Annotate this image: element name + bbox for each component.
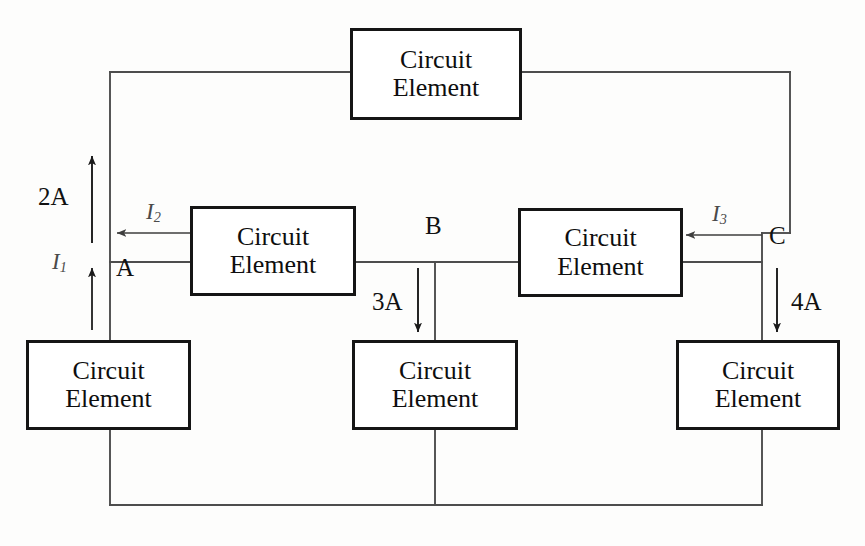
current-label-2a: 2A xyxy=(38,183,69,211)
circuit-element-bottom-left-line2: Element xyxy=(65,385,152,413)
current-label-i3: I3 xyxy=(712,201,727,228)
node-label-b: B xyxy=(425,212,442,240)
circuit-element-bottom-middle[interactable]: Circuit Element xyxy=(352,340,518,430)
circuit-element-top-line2: Element xyxy=(393,74,480,102)
node-label-a: A xyxy=(116,254,134,282)
circuit-element-middle-left-line2: Element xyxy=(230,251,317,279)
circuit-element-middle-right-line1: Circuit xyxy=(564,224,636,252)
current-label-i2-base: I xyxy=(146,199,154,224)
circuit-element-middle-right[interactable]: Circuit Element xyxy=(518,208,683,297)
circuit-element-bottom-right-line1: Circuit xyxy=(722,357,794,385)
circuit-element-middle-left[interactable]: Circuit Element xyxy=(190,206,356,296)
node-label-c: C xyxy=(769,222,786,250)
circuit-element-bottom-left-line1: Circuit xyxy=(72,357,144,385)
circuit-element-top[interactable]: Circuit Element xyxy=(350,28,522,120)
current-label-i1-base: I xyxy=(52,249,60,274)
circuit-element-middle-left-line1: Circuit xyxy=(237,223,309,251)
circuit-element-bottom-right-line2: Element xyxy=(715,385,802,413)
circuit-diagram-canvas: Circuit Element Circuit Element Circuit … xyxy=(0,0,865,546)
circuit-element-top-line1: Circuit xyxy=(400,46,472,74)
current-label-4a: 4A xyxy=(791,288,822,316)
current-label-i2-subscript: 2 xyxy=(154,209,161,225)
current-label-i3-base: I xyxy=(712,201,720,226)
circuit-element-middle-right-line2: Element xyxy=(557,253,644,281)
current-label-i1-subscript: 1 xyxy=(60,259,67,275)
current-label-3a: 3A xyxy=(372,288,403,316)
circuit-element-bottom-middle-line2: Element xyxy=(392,385,479,413)
current-label-i2: I2 xyxy=(146,199,161,226)
circuit-element-bottom-right[interactable]: Circuit Element xyxy=(676,340,840,430)
current-label-i3-subscript: 3 xyxy=(720,211,727,227)
circuit-element-bottom-left[interactable]: Circuit Element xyxy=(26,340,191,430)
current-label-i1: I1 xyxy=(52,249,67,276)
circuit-element-bottom-middle-line1: Circuit xyxy=(399,357,471,385)
